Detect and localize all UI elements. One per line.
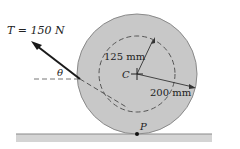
center-label: C: [122, 69, 130, 80]
contact-point-dot: [135, 132, 139, 136]
diagram-canvas: T = 150 N θ 125 mm C 200 mm P: [0, 0, 240, 149]
ground: [16, 134, 212, 142]
tension-arrow: [31, 41, 80, 79]
inner-radius-label: 125 mm: [104, 51, 146, 62]
outer-radius-label: 200 mm: [150, 87, 192, 98]
contact-label: P: [139, 121, 147, 132]
tension-label: T = 150 N: [7, 24, 65, 37]
angle-label: θ: [57, 67, 63, 78]
